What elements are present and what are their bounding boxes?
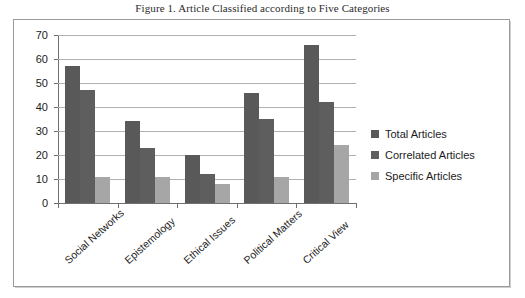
x-axis-label: Ethical Issues: [181, 214, 237, 266]
x-axis-label: Political Matters: [241, 207, 304, 266]
bar-total-articles: [65, 66, 80, 203]
y-tick-mark: [54, 155, 58, 156]
gridline: [58, 203, 356, 204]
bar-correlated-articles: [200, 174, 215, 203]
x-axis-label: Epistemology: [122, 215, 177, 266]
legend-label: Specific Articles: [385, 170, 462, 182]
y-tick-label: 50: [14, 77, 48, 89]
legend-item: Specific Articles: [371, 165, 475, 186]
y-tick-label: 60: [14, 53, 48, 65]
legend-swatch-icon: [371, 172, 379, 180]
bar-total-articles: [304, 45, 319, 203]
y-tick-mark: [54, 131, 58, 132]
legend-label: Correlated Articles: [385, 149, 475, 161]
y-tick-mark: [54, 59, 58, 60]
bar-specific-articles: [274, 177, 289, 203]
bar-specific-articles: [95, 177, 110, 203]
x-axis-label: Social Networks: [62, 207, 126, 266]
x-tick-mark: [237, 203, 238, 208]
x-axis-label: Critical View: [300, 218, 351, 265]
bar-correlated-articles: [140, 148, 155, 203]
legend-item: Correlated Articles: [371, 144, 475, 165]
bar-total-articles: [125, 121, 140, 203]
figure-border: 706050403020100 Social NetworksEpistemol…: [13, 19, 510, 287]
legend-item: Total Articles: [371, 123, 475, 144]
bar-total-articles: [185, 155, 200, 203]
bar-correlated-articles: [259, 119, 274, 203]
bar-chart: 706050403020100 Social NetworksEpistemol…: [14, 20, 511, 288]
legend-swatch-icon: [371, 130, 379, 138]
legend-label: Total Articles: [385, 128, 447, 140]
y-tick-label: 0: [14, 197, 48, 209]
bar-correlated-articles: [319, 102, 334, 203]
y-tick-label: 40: [14, 101, 48, 113]
y-tick-mark: [54, 179, 58, 180]
x-tick-mark: [356, 203, 357, 208]
x-tick-mark: [177, 203, 178, 208]
gridline: [58, 35, 356, 36]
y-tick-mark: [54, 35, 58, 36]
legend-swatch-icon: [371, 151, 379, 159]
y-tick-label: 70: [14, 29, 48, 41]
bar-total-articles: [244, 93, 259, 203]
figure-caption: Figure 1. Article Classified according t…: [0, 2, 525, 14]
x-tick-mark: [118, 203, 119, 208]
y-tick-label: 30: [14, 125, 48, 137]
x-tick-mark: [296, 203, 297, 208]
bar-specific-articles: [155, 177, 170, 203]
chart-legend: Total ArticlesCorrelated ArticlesSpecifi…: [371, 123, 475, 186]
y-tick-mark: [54, 107, 58, 108]
bar-correlated-articles: [80, 90, 95, 203]
bar-specific-articles: [215, 184, 230, 203]
x-tick-mark: [58, 203, 59, 208]
bar-specific-articles: [334, 145, 349, 203]
y-tick-label: 10: [14, 173, 48, 185]
y-tick-label: 20: [14, 149, 48, 161]
y-tick-mark: [54, 83, 58, 84]
